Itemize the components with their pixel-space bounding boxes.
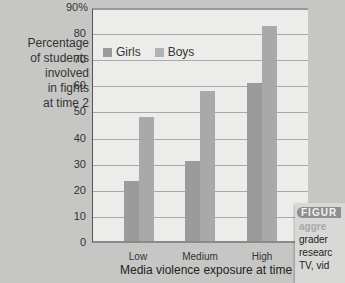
x-tick-high: High	[237, 251, 287, 262]
y-tick-label: 80	[46, 27, 86, 39]
y-tick-label: 70	[46, 53, 86, 65]
legend-item-boys: Boys	[155, 45, 195, 59]
boys-swatch-icon	[155, 48, 164, 57]
caption-line: researc	[299, 247, 332, 258]
plot-area	[92, 8, 308, 243]
y-tick-label: 30	[46, 158, 86, 170]
bar-boys-medium	[200, 91, 215, 241]
girls-swatch-icon	[103, 48, 112, 57]
y-tick-label: 40	[46, 132, 86, 144]
x-tick-medium: Medium	[175, 251, 225, 262]
bar-girls-low	[124, 181, 139, 241]
figure-caption: FIGUR aggre grader researc TV, vid	[295, 203, 345, 283]
x-axis-label: Media violence exposure at time 1	[120, 263, 302, 277]
bar-girls-high	[247, 83, 262, 241]
caption-line: TV, vid	[299, 260, 329, 271]
legend-label: Girls	[116, 45, 141, 59]
y-tick-label: 20	[46, 184, 86, 196]
bar-boys-high	[262, 26, 277, 241]
x-tick-low: Low	[113, 251, 163, 262]
y-tick-label: 10	[46, 210, 86, 222]
caption-line: aggre	[299, 221, 326, 232]
y-tick-label: 50	[46, 105, 86, 117]
bar-boys-low	[139, 117, 154, 241]
legend-label: Boys	[168, 45, 195, 59]
y-axis-label: Percentage of students involved in fight…	[0, 36, 89, 111]
y-tick-label: 60	[46, 79, 86, 91]
legend-item-girls: Girls	[103, 45, 141, 59]
caption-line: grader	[299, 234, 328, 245]
figure-tag: FIGUR	[297, 207, 341, 218]
bar-girls-medium	[185, 161, 200, 241]
legend: Girls Boys	[103, 45, 194, 59]
y-tick-label: 90%	[48, 1, 88, 13]
y-tick-label: 0	[46, 236, 86, 248]
